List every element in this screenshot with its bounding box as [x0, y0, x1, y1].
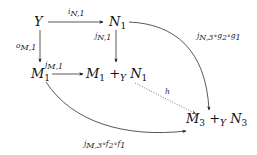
node-m1-plus-n1: M1 +Y N1	[86, 67, 147, 83]
label-top-c: ∘g	[227, 31, 235, 40]
label-o-m1-sub: M,1	[21, 43, 37, 52]
m1n1-left-base: M	[86, 66, 99, 81]
m1n1-op-sub: Y	[120, 73, 126, 83]
m1n1-right-base: N	[130, 66, 141, 81]
label-j-n1-sub: N,1	[97, 33, 111, 42]
label-o-m1: oM,1	[16, 42, 36, 52]
label-i-n1-sub: N,1	[70, 9, 84, 18]
label-j-m1: jM,1	[45, 61, 63, 71]
m1n1-right-sub: 1	[142, 73, 148, 83]
node-m1-base: M	[31, 66, 44, 81]
node-n1: N1	[109, 15, 126, 31]
m1n1-op: +	[109, 66, 120, 81]
label-i-n1: iN,1	[68, 8, 85, 18]
m3n3-right-sub: 3	[242, 118, 248, 128]
node-n1-base: N	[109, 14, 120, 29]
label-top-c-sub: 1	[236, 33, 241, 42]
label-top-a-sub: N,3	[199, 33, 213, 42]
m3n3-right-base: N	[230, 111, 241, 126]
node-y: Y	[34, 15, 43, 28]
label-bottom-c-sub: 1	[120, 141, 125, 150]
node-m1-sub: 1	[44, 73, 50, 83]
label-bottom-a-sub: M,3	[86, 141, 102, 150]
m3n3-left-sub: 3	[199, 118, 205, 128]
m3n3-op-sub: Y	[220, 118, 226, 128]
label-h: h	[165, 88, 170, 96]
node-n1-sub: 1	[120, 21, 126, 31]
m3n3-left-base: M	[186, 111, 199, 126]
m3n3-op: +	[209, 111, 220, 126]
label-top-b: ∘g	[213, 31, 221, 40]
label-top-curve: jN,3∘g2∘g1	[197, 32, 241, 42]
label-j-n1: jN,1	[95, 32, 111, 42]
label-bottom-curve: jM,3∘f2∘f1	[84, 140, 125, 150]
node-y-text: Y	[34, 14, 43, 29]
label-j-m1-sub: M,1	[47, 62, 63, 71]
label-h-text: h	[165, 87, 170, 96]
m1n1-left-sub: 1	[99, 73, 105, 83]
node-m3-plus-n3: M3 +Y N3	[186, 112, 247, 128]
